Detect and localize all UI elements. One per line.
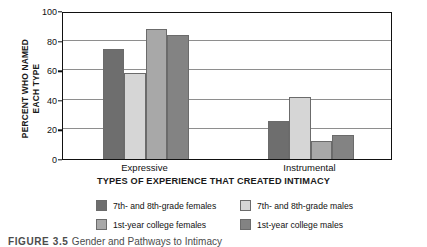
legend-item-3[interactable]: 1st-year college males — [240, 219, 376, 230]
legend-swatch-icon-2 — [96, 219, 107, 230]
legend-swatch-icon-1 — [240, 200, 251, 211]
legend-swatch-icon-3 — [240, 219, 251, 230]
legend-swatch-icon-0 — [96, 200, 107, 211]
legend-row: 1st-year college females 1st-year colleg… — [96, 215, 376, 234]
plot-area — [62, 12, 392, 160]
y-tick-label: 20 — [47, 125, 57, 135]
legend: 7th- and 8th-grade females 7th- and 8th-… — [96, 196, 376, 234]
legend-label-1: 7th- and 8th-grade males — [257, 201, 353, 211]
legend-item-0[interactable]: 7th- and 8th-grade females — [96, 200, 240, 211]
legend-label-0: 7th- and 8th-grade females — [113, 201, 216, 211]
legend-label-3: 1st-year college males — [257, 220, 343, 230]
bar-instrumental-series-3 — [332, 135, 354, 159]
legend-item-2[interactable]: 1st-year college females — [96, 219, 240, 230]
y-tick-label: 100 — [42, 7, 57, 17]
legend-row: 7th- and 8th-grade females 7th- and 8th-… — [96, 196, 376, 215]
y-tick-label: 40 — [47, 96, 57, 106]
y-tick-label: 0 — [52, 155, 57, 165]
y-axis-ticks: 020406080100 — [30, 12, 62, 160]
bar-expressive-series-1 — [124, 73, 146, 159]
y-tick-label: 80 — [47, 37, 57, 47]
gridline — [63, 40, 391, 41]
legend-label-2: 1st-year college females — [113, 220, 206, 230]
bar-instrumental-series-1 — [289, 97, 311, 159]
legend-item-1[interactable]: 7th- and 8th-grade males — [240, 200, 376, 211]
bar-expressive-series-0 — [103, 49, 125, 159]
figure-caption-text: Gender and Pathways to Intimacy — [72, 236, 222, 247]
x-category-label-1: Instrumental — [283, 162, 335, 173]
x-axis-title: TYPES OF EXPERIENCE THAT CREATED INTIMAC… — [0, 176, 427, 186]
x-category-label-0: Expressive — [121, 162, 167, 173]
y-tick-label: 60 — [47, 66, 57, 76]
bar-instrumental-series-0 — [268, 121, 290, 159]
figure-container: PERCENT WHO NAMED EACH TYPE 020406080100… — [0, 0, 427, 247]
bar-expressive-series-2 — [146, 29, 168, 159]
figure-caption-number: FIGURE 3.5 — [8, 236, 68, 247]
bar-expressive-series-3 — [167, 35, 189, 159]
bar-instrumental-series-2 — [311, 141, 333, 159]
figure-caption: FIGURE 3.5 Gender and Pathways to Intima… — [8, 236, 427, 247]
